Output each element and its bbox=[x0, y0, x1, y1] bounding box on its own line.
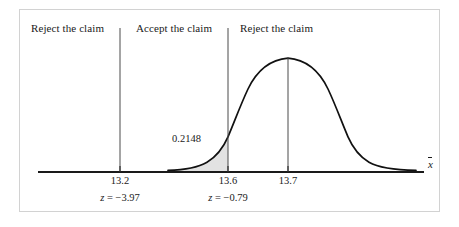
z-label-13-6: z = −0.79 bbox=[193, 192, 263, 203]
z-label-13-2: z = −3.97 bbox=[85, 192, 155, 203]
region-label-accept: Accept the claim bbox=[136, 22, 212, 34]
region-label-reject-right: Reject the claim bbox=[240, 22, 313, 34]
shaded-area-label: 0.2148 bbox=[172, 133, 201, 144]
hypothesis-test-figure: Reject the claim Accept the claim Reject… bbox=[0, 0, 459, 227]
axis-label-x-bar: x bbox=[428, 158, 433, 170]
region-label-reject-left: Reject the claim bbox=[31, 22, 104, 34]
z-value-right: −0.79 bbox=[223, 192, 247, 203]
tick-label-13-6: 13.6 bbox=[208, 175, 248, 186]
tick-label-13-7: 13.7 bbox=[268, 175, 308, 186]
tick-label-13-2: 13.2 bbox=[100, 175, 140, 186]
z-value-left: −3.97 bbox=[115, 192, 139, 203]
normal-curve bbox=[168, 58, 416, 170]
x-bar-symbol: x bbox=[428, 158, 433, 170]
